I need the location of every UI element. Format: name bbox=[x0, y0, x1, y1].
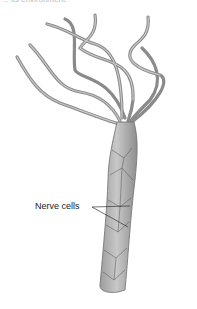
hydra-illustration bbox=[0, 0, 197, 309]
hydra-body bbox=[100, 122, 137, 292]
tentacle-highlights bbox=[17, 15, 160, 123]
nerve-cells-label: Nerve cells bbox=[35, 201, 80, 211]
